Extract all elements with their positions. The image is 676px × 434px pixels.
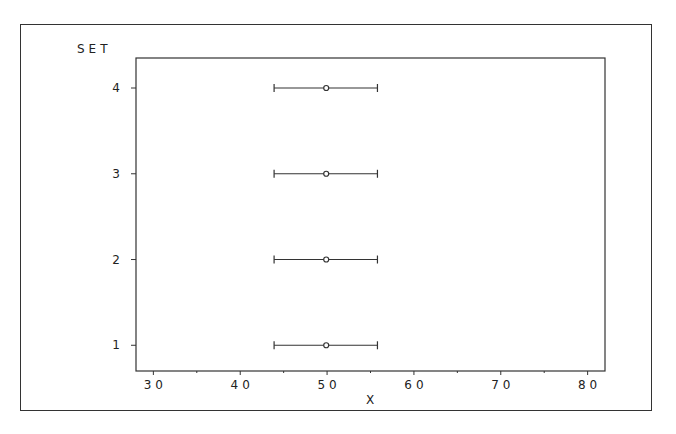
error-bar-chart: 3040506070801234 SET X <box>0 0 676 434</box>
error-bars <box>274 84 377 349</box>
y-tick-label: 3 <box>112 167 124 181</box>
y-tick-label: 4 <box>112 81 124 95</box>
x-tick-label: 70 <box>491 378 514 392</box>
x-tick-label: 50 <box>317 378 340 392</box>
x-tick-label: 80 <box>578 378 601 392</box>
x-tick-label: 60 <box>404 378 427 392</box>
error-bar <box>274 256 377 264</box>
center-point-marker <box>324 343 329 348</box>
plot-axes: 3040506070801234 <box>112 58 605 392</box>
x-axis-label: X <box>366 393 378 407</box>
y-tick-label: 2 <box>112 253 124 267</box>
center-point-marker <box>324 86 329 91</box>
error-bar <box>274 170 377 178</box>
center-point-marker <box>324 171 329 176</box>
x-tick-label: 40 <box>231 378 254 392</box>
error-bar <box>274 341 377 349</box>
center-point-marker <box>324 257 329 262</box>
error-bar <box>274 84 377 92</box>
y-axis-label: SET <box>77 42 112 56</box>
plot-area <box>136 58 605 371</box>
x-tick-label: 30 <box>144 378 167 392</box>
y-tick-label: 1 <box>112 338 124 352</box>
